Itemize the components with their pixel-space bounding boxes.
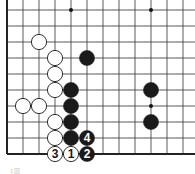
go-board: 3142 (0, 0, 195, 174)
star-point-icon (149, 104, 153, 108)
diagram-caption: 1図 (10, 166, 21, 174)
move-number-label: 1 (68, 147, 75, 161)
black-stone (79, 50, 94, 65)
move-number-label: 4 (84, 131, 91, 145)
star-point-icon (69, 8, 73, 12)
white-stone (47, 66, 62, 81)
move-number-label: 3 (52, 147, 59, 161)
white-stone (31, 34, 46, 49)
black-stone (63, 98, 78, 113)
star-point-icon (149, 8, 153, 12)
white-stone (47, 114, 62, 129)
black-stone (143, 82, 158, 97)
black-stone (63, 130, 78, 145)
move-number-label: 2 (84, 147, 91, 161)
black-stone (63, 114, 78, 129)
white-stone (47, 50, 62, 65)
white-stone (31, 98, 46, 113)
white-stone (15, 98, 30, 113)
white-stone (47, 130, 62, 145)
black-stone (63, 82, 78, 97)
black-stone (143, 114, 158, 129)
white-stone (47, 82, 62, 97)
